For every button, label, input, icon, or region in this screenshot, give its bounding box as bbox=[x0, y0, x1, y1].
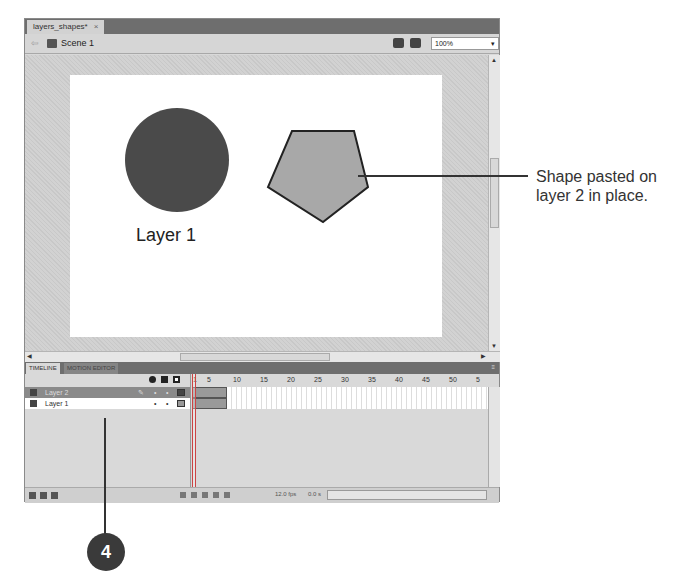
zoom-select[interactable]: 100% ▾ bbox=[431, 37, 499, 50]
close-icon[interactable]: × bbox=[94, 20, 99, 34]
step-badge: 4 bbox=[87, 533, 125, 571]
callout-line-1: Shape pasted on bbox=[536, 167, 657, 186]
layer-icon bbox=[30, 400, 37, 407]
modify-markers-icon[interactable] bbox=[224, 492, 230, 498]
scroll-left-icon[interactable]: ◀ bbox=[27, 352, 32, 359]
timeline-vertical-scrollbar[interactable] bbox=[488, 387, 500, 487]
center-frame-icon[interactable] bbox=[180, 492, 186, 498]
document-tab-label: layers_shapes* bbox=[33, 20, 88, 34]
scroll-right-icon[interactable]: ▶ bbox=[481, 352, 486, 359]
pasteboard: Layer 1 bbox=[25, 55, 488, 351]
timeline-panel: Layer 2 ✎ • • Layer 1 • • 1 5 10 15 20 bbox=[25, 374, 499, 503]
tab-motion-editor[interactable]: MOTION EDITOR bbox=[64, 363, 118, 374]
pentagon-shape[interactable] bbox=[268, 131, 368, 222]
timeline-horizontal-scrollbar[interactable] bbox=[327, 490, 487, 500]
lock-icon[interactable] bbox=[161, 376, 168, 383]
delete-layer-icon[interactable] bbox=[51, 492, 58, 499]
keyframe-span[interactable] bbox=[192, 398, 227, 409]
layer-row-layer-1[interactable]: Layer 1 • • bbox=[25, 398, 190, 409]
ruler-tick: 45 bbox=[422, 376, 430, 383]
callout-line-2: layer 2 in place. bbox=[536, 186, 657, 205]
horizontal-scroll-thumb[interactable] bbox=[180, 353, 330, 361]
frame-row-layer-2[interactable] bbox=[192, 387, 488, 398]
ruler-tick: 50 bbox=[449, 376, 457, 383]
edit-symbols-icon[interactable] bbox=[410, 38, 421, 48]
panel-tab-bar: TIMELINE MOTION EDITOR ≡ bbox=[25, 362, 499, 374]
stage-horizontal-scrollbar[interactable]: ◀ ▶ bbox=[25, 351, 500, 362]
stage-shapes bbox=[70, 75, 442, 337]
ruler-tick: 25 bbox=[314, 376, 322, 383]
layers-column: Layer 2 ✎ • • Layer 1 • • bbox=[25, 374, 191, 487]
frame-rate[interactable]: 12.0 fps bbox=[275, 491, 296, 497]
visibility-dot[interactable]: • bbox=[154, 398, 156, 409]
layer-icon bbox=[30, 389, 37, 396]
lock-dot[interactable]: • bbox=[166, 387, 168, 398]
lock-dot[interactable]: • bbox=[166, 398, 168, 409]
scroll-up-icon[interactable]: ▲ bbox=[491, 57, 497, 63]
new-folder-icon[interactable] bbox=[40, 492, 47, 499]
pencil-icon: ✎ bbox=[138, 387, 144, 398]
layer-row-layer-2[interactable]: Layer 2 ✎ • • bbox=[25, 387, 190, 398]
frames-area[interactable]: 1 5 10 15 20 25 30 35 40 45 50 5 bbox=[192, 374, 488, 487]
ruler-tick: 40 bbox=[395, 376, 403, 383]
ruler-tick: 5 bbox=[476, 376, 480, 383]
ruler-tick: 35 bbox=[368, 376, 376, 383]
tab-timeline[interactable]: TIMELINE bbox=[26, 363, 60, 374]
panel-menu-icon[interactable]: ≡ bbox=[491, 364, 495, 370]
frame-ruler[interactable]: 1 5 10 15 20 25 30 35 40 45 50 5 bbox=[192, 374, 488, 387]
onion-skin-icon[interactable] bbox=[191, 492, 197, 498]
ruler-tick: 10 bbox=[233, 376, 241, 383]
zoom-value: 100% bbox=[435, 40, 453, 47]
scene-label[interactable]: Scene 1 bbox=[61, 38, 94, 48]
scene-bar: ⇦ Scene 1 100% ▾ bbox=[25, 34, 499, 54]
onion-outline-icon[interactable] bbox=[202, 492, 208, 498]
scroll-down-icon[interactable]: ▼ bbox=[491, 343, 497, 349]
playhead[interactable] bbox=[192, 374, 196, 487]
outline-icon[interactable] bbox=[173, 376, 180, 383]
ruler-tick: 20 bbox=[287, 376, 295, 383]
edit-scene-icon[interactable] bbox=[393, 38, 404, 48]
keyframe-span[interactable] bbox=[192, 387, 227, 398]
vertical-scroll-thumb[interactable] bbox=[490, 158, 499, 228]
eye-icon[interactable] bbox=[149, 376, 156, 383]
ruler-tick: 30 bbox=[341, 376, 349, 383]
ruler-tick: 15 bbox=[260, 376, 268, 383]
circle-shape[interactable] bbox=[125, 108, 229, 212]
edit-icons bbox=[393, 38, 421, 48]
stage-vertical-scrollbar[interactable]: ▲ ▼ bbox=[488, 55, 500, 351]
frame-row-layer-1[interactable] bbox=[192, 398, 488, 409]
elapsed-time: 0.0 s bbox=[308, 491, 321, 497]
layer-name[interactable]: Layer 1 bbox=[45, 398, 68, 409]
back-arrow-icon[interactable]: ⇦ bbox=[31, 38, 39, 48]
outline-color-square[interactable] bbox=[177, 389, 185, 396]
layer-header bbox=[25, 374, 190, 387]
edit-multiple-frames-icon[interactable] bbox=[213, 492, 219, 498]
layer-1-label: Layer 1 bbox=[136, 225, 196, 246]
document-tab-bar: layers_shapes* × bbox=[25, 19, 499, 34]
ruler-tick: 5 bbox=[207, 376, 211, 383]
timeline-footer: 12.0 fps 0.0 s bbox=[25, 487, 499, 503]
callout-line bbox=[358, 175, 528, 177]
layer-name[interactable]: Layer 2 bbox=[45, 387, 68, 398]
new-layer-icon[interactable] bbox=[29, 492, 36, 499]
scene-clapper-icon bbox=[47, 39, 57, 48]
visibility-dot[interactable]: • bbox=[154, 387, 156, 398]
step-pointer-line bbox=[104, 418, 106, 534]
stage[interactable]: Layer 1 bbox=[70, 75, 442, 337]
document-tab[interactable]: layers_shapes* × bbox=[27, 20, 104, 34]
outline-color-square[interactable] bbox=[177, 400, 185, 407]
chevron-down-icon: ▾ bbox=[491, 38, 495, 49]
callout-text: Shape pasted on layer 2 in place. bbox=[536, 167, 657, 205]
flash-window: layers_shapes* × ⇦ Scene 1 100% ▾ Layer … bbox=[24, 18, 500, 502]
